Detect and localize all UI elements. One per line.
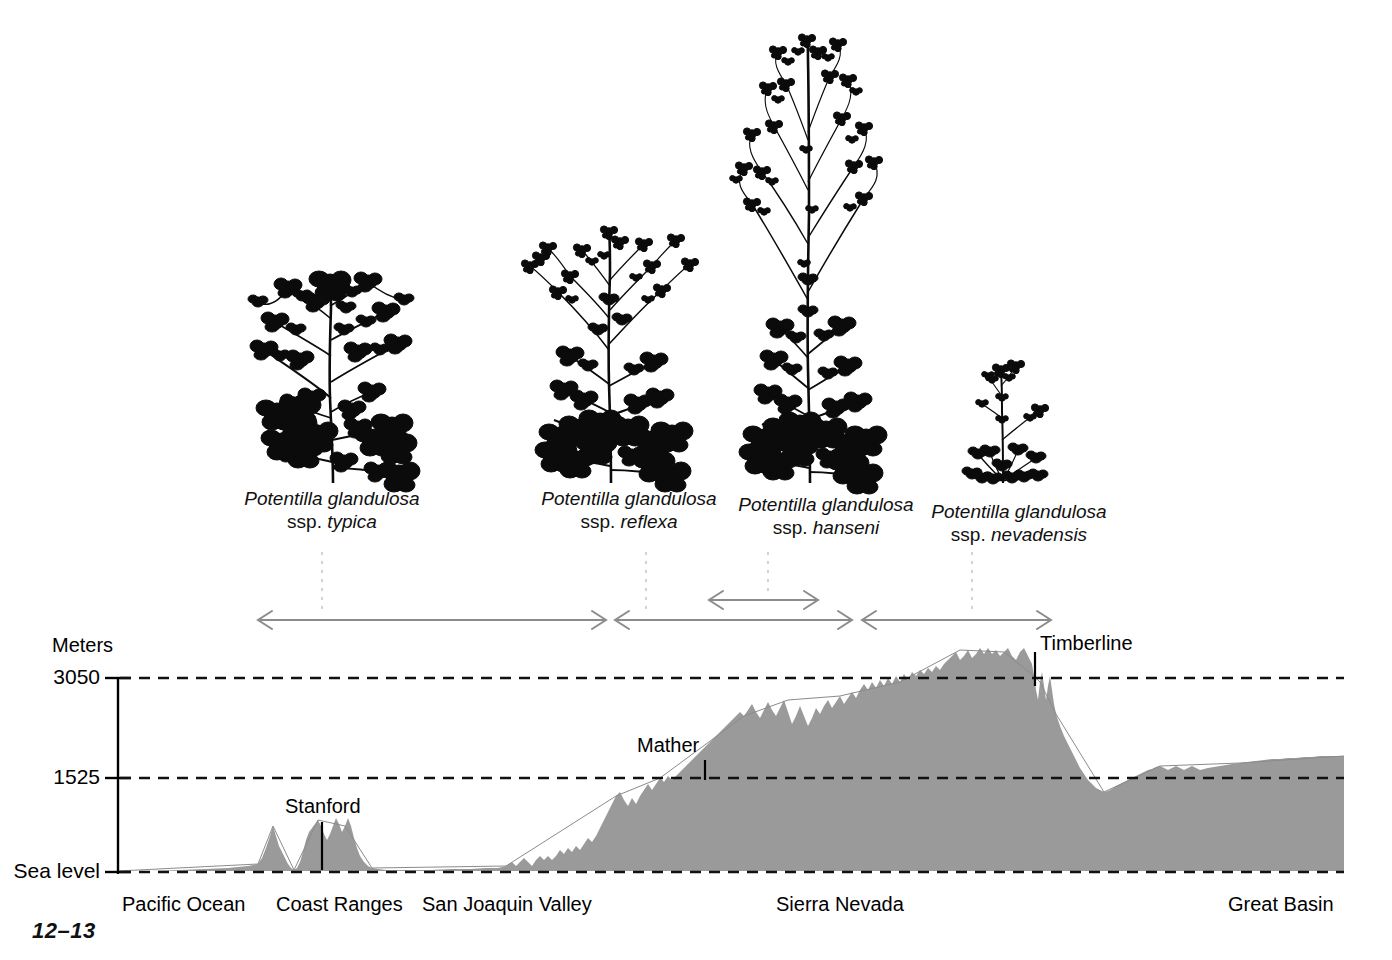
figure-container: Potentilla glandulosa ssp. typica Potent… <box>0 0 1392 960</box>
plant-nevadensis-silhouette <box>962 360 1049 484</box>
ssp-prefix-nevadensis: ssp. <box>951 524 986 545</box>
species-name-reflexa: Potentilla glandulosa <box>541 488 716 509</box>
region-label-san-joaquin-valley: San Joaquin Valley <box>422 893 592 916</box>
region-label-sierra-nevada: Sierra Nevada <box>776 893 904 916</box>
site-markers <box>322 652 1035 870</box>
elevation-profile <box>118 648 1344 871</box>
tick-label-3050: 3050 <box>0 665 100 689</box>
plant-caption-nevadensis: Potentilla glandulosa ssp. nevadensis <box>919 500 1119 546</box>
site-label-mather: Mather <box>637 734 699 757</box>
plant-typica-silhouette <box>248 271 420 492</box>
species-name-typica: Potentilla glandulosa <box>244 488 419 509</box>
terrain-fill <box>118 648 1344 871</box>
y-axis-title: Meters <box>52 634 113 657</box>
range-arrow-nevadensis <box>862 611 1051 629</box>
region-label-pacific-ocean: Pacific Ocean <box>122 893 245 916</box>
range-arrow-typica <box>258 611 606 629</box>
plant-caption-hanseni: Potentilla glandulosa ssp. hanseni <box>726 493 926 539</box>
ssp-prefix-reflexa: ssp. <box>580 511 615 532</box>
species-name-hanseni: Potentilla glandulosa <box>738 494 913 515</box>
ssp-epithet-nevadensis: nevadensis <box>991 524 1087 545</box>
figure-number: 12–13 <box>32 918 96 944</box>
tick-label-1525: 1525 <box>0 765 100 789</box>
ssp-prefix-hanseni: ssp. <box>773 517 808 538</box>
site-label-stanford: Stanford <box>285 795 361 818</box>
range-arrows <box>258 591 1051 629</box>
plant-hanseni-silhouette <box>730 34 887 494</box>
chart-axis <box>105 678 131 874</box>
ssp-epithet-reflexa: reflexa <box>621 511 678 532</box>
range-arrow-reflexa <box>615 611 852 629</box>
plant-caption-reflexa: Potentilla glandulosa ssp. reflexa <box>529 487 729 533</box>
region-label-great-basin: Great Basin <box>1228 893 1334 916</box>
elevation-gridlines <box>120 678 1344 872</box>
plant-caption-typica: Potentilla glandulosa ssp. typica <box>232 487 432 533</box>
range-arrow-hanseni <box>709 591 818 609</box>
ssp-epithet-typica: typica <box>327 511 377 532</box>
figure-graphics <box>0 0 1392 960</box>
plant-reflexa-silhouette <box>521 226 698 492</box>
caption-connectors <box>322 552 972 612</box>
region-label-coast-ranges: Coast Ranges <box>276 893 403 916</box>
tick-label-sea-level: Sea level <box>0 859 100 883</box>
ssp-epithet-hanseni: hanseni <box>813 517 880 538</box>
species-name-nevadensis: Potentilla glandulosa <box>931 501 1106 522</box>
site-label-timberline: Timberline <box>1040 632 1133 655</box>
ssp-prefix-typica: ssp. <box>287 511 322 532</box>
